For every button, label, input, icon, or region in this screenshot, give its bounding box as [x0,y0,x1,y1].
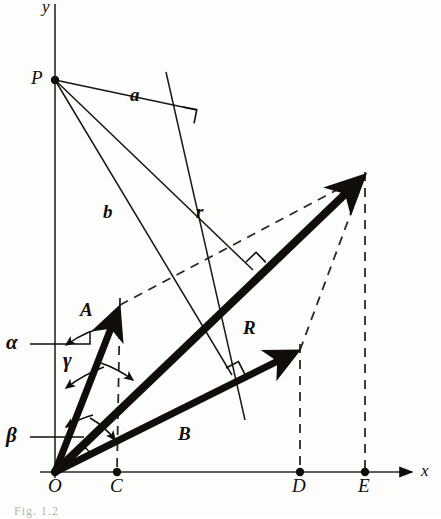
point-label-C: C [110,476,123,495]
vector-label-A: A [80,300,93,319]
vector-label-R: R [243,318,256,337]
segment-label-a: a [130,85,140,104]
point-label-D: D [292,476,306,495]
segment-a [55,80,197,110]
perp-line-through-a [166,72,245,420]
point-label-O: O [48,476,62,495]
segment-label-b: b [103,202,113,221]
point-dot-P [51,76,59,84]
segment-r [55,80,253,270]
y-axis-label: y [42,0,50,15]
construction-line-group [166,72,245,420]
segments-from-p-group [55,80,253,375]
vector-label-B: B [178,424,191,443]
alpha-leader [30,331,90,344]
angle-label-alpha: α [6,332,18,353]
points-group [51,76,369,476]
segment-label-r: r [196,202,203,221]
right-angle-a [180,107,196,123]
dash-A-to-Rtip [120,175,365,305]
angle-arcs-group [30,325,133,455]
gamma-arc-lower [101,363,133,380]
angle-label-gamma: γ [63,350,72,371]
point-label-P: P [31,68,43,87]
angle-label-beta: β [6,425,17,446]
point-label-E: E [358,476,370,495]
axis-group [40,4,412,478]
figure-caption: Fig. 1.2 [14,504,59,519]
x-axis-label: x [421,462,429,479]
